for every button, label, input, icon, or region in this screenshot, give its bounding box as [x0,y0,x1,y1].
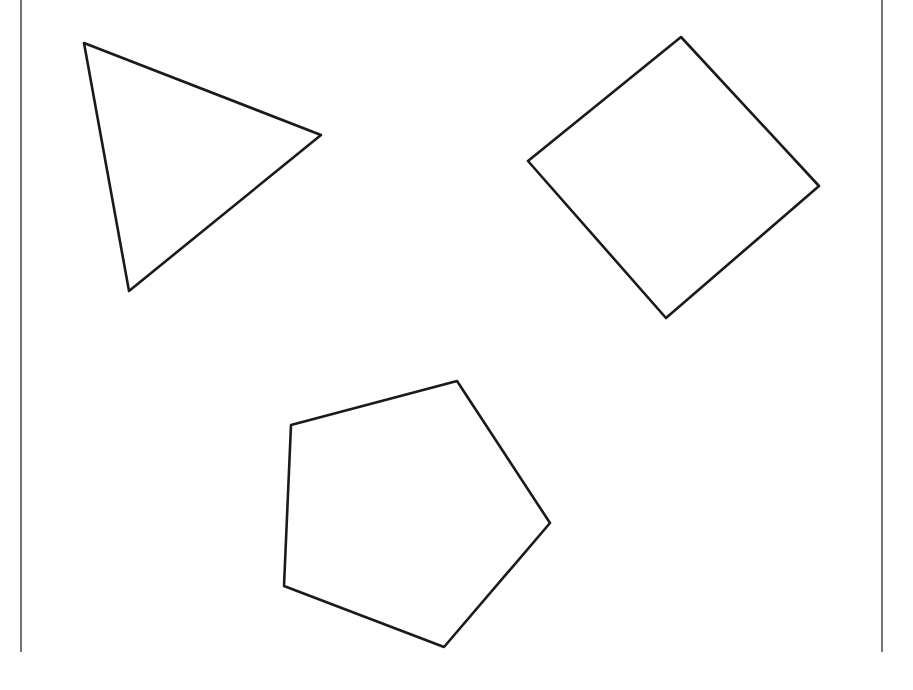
triangle-shape [84,43,321,291]
pentagon-shape [284,381,550,647]
shapes-diagram [0,0,913,690]
square-shape [528,37,819,318]
